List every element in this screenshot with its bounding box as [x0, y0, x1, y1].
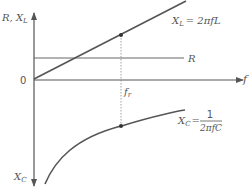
xc-formula-numerator: 1 — [207, 109, 213, 120]
y-axis-bottom-label: XC — [13, 171, 27, 184]
xc-formula-denominator: 2πfC — [199, 123, 222, 133]
capacitive-reactance-curve — [45, 110, 185, 184]
xc-resonance-point — [119, 124, 123, 128]
xc-formula: XC= 1 2πfC — [177, 109, 222, 133]
y-axis-top-label: R, XL — [1, 12, 28, 25]
resistance-label: R — [187, 53, 196, 64]
x-axis-label: f — [242, 73, 249, 86]
xl-resonance-point — [119, 33, 123, 37]
resonance-frequency-label: fr — [123, 86, 132, 99]
origin-label: 0 — [20, 75, 26, 86]
inductive-reactance-line — [34, 1, 186, 79]
svg-text:XC=: XC= — [177, 115, 200, 128]
reactance-diagram: R, XL 0 f R fr XC XL= 2πfL XC= 1 2πfC — [0, 0, 249, 190]
xl-formula: XL= 2πfL — [171, 15, 221, 28]
